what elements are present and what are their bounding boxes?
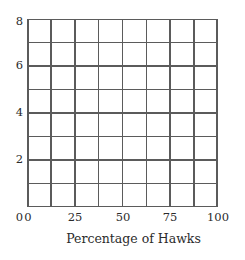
x-axis-labels: 0 25 50 75 100 — [0, 0, 245, 260]
x-tick-label: 50 — [103, 212, 143, 224]
chart-container: 8 6 4 2 0 0 25 50 75 100 Percentage of H… — [0, 0, 245, 260]
x-tick-label: 100 — [198, 212, 238, 224]
x-tick-label: 25 — [55, 212, 95, 224]
x-axis-title: Percentage of Hawks — [0, 232, 245, 246]
x-tick-label: 75 — [150, 212, 190, 224]
x-tick-label: 0 — [8, 212, 48, 224]
